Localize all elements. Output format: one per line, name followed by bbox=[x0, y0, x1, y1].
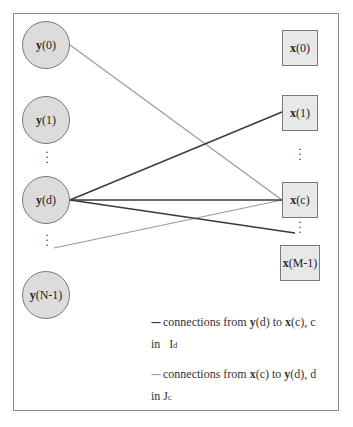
edge-xc-yellipsis bbox=[54, 200, 282, 248]
node-xM1-idx: (M-1) bbox=[289, 256, 318, 271]
legend-dark-i1: (d) to bbox=[256, 315, 285, 329]
legend-dark-text: connections from bbox=[160, 315, 250, 329]
edge-yd-x1 bbox=[70, 112, 282, 200]
x-ellipsis-lower: ··· bbox=[297, 220, 303, 235]
legend-light-text: connections from bbox=[160, 367, 250, 381]
legend-light: --- connections from x(c) to y(d), d in … bbox=[151, 363, 316, 409]
node-yd: y(d) bbox=[22, 176, 70, 224]
node-yN1-idx: (N-1) bbox=[36, 288, 63, 303]
node-xM1: x(M-1) bbox=[280, 245, 320, 281]
legend-dark-in: in I bbox=[151, 337, 173, 351]
x-ellipsis-upper: ··· bbox=[297, 147, 303, 162]
legend-dark-line2: in Id bbox=[151, 333, 316, 357]
legend-light-in: in J bbox=[151, 389, 168, 403]
legend-light-line1: --- connections from x(c) to y(d), d bbox=[151, 363, 316, 385]
edge-xc-y0 bbox=[70, 45, 282, 200]
light-dash-swatch: --- bbox=[151, 367, 160, 381]
y-ellipsis-lower: ··· bbox=[44, 233, 50, 248]
node-y0-idx: (0) bbox=[42, 38, 56, 53]
legend-dark: --- connections from y(d) to x(c), c in … bbox=[151, 311, 316, 357]
node-xc: x(c) bbox=[282, 182, 318, 218]
node-y1: y(1) bbox=[22, 96, 70, 144]
node-x1-idx: (1) bbox=[296, 106, 310, 121]
node-x1: x(1) bbox=[282, 95, 318, 131]
legend-dark-i2: (c), c bbox=[291, 315, 316, 329]
dark-dash-swatch: --- bbox=[151, 315, 160, 329]
node-yN1: y(N-1) bbox=[22, 271, 70, 319]
legend-dark-line1: --- connections from y(d) to x(c), c bbox=[151, 311, 316, 333]
y-ellipsis-upper: ··· bbox=[44, 150, 50, 165]
node-x0-idx: (0) bbox=[296, 41, 310, 56]
legend-dark-sub: d bbox=[173, 341, 177, 350]
node-x0: x(0) bbox=[282, 30, 318, 66]
node-y1-idx: (1) bbox=[42, 113, 56, 128]
legend-light-i2: (d), d bbox=[290, 367, 316, 381]
legend-light-i1: (c) to bbox=[256, 367, 285, 381]
node-y0: y(0) bbox=[22, 21, 70, 69]
legend-light-line2: in Jc bbox=[151, 385, 316, 409]
node-xc-idx: (c) bbox=[296, 193, 309, 208]
node-yd-idx: (d) bbox=[42, 193, 56, 208]
legend-light-sub: c bbox=[168, 393, 172, 402]
